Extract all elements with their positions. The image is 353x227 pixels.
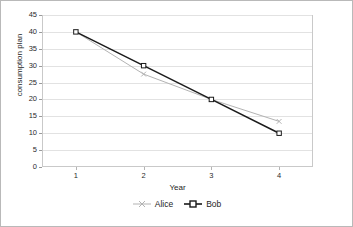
x-axis-title: Year bbox=[42, 184, 313, 192]
legend-entry-bob[interactable]: Bob bbox=[183, 199, 221, 209]
data-point-marker-bob bbox=[209, 97, 213, 101]
legend-entry-alice[interactable]: Alice bbox=[132, 199, 173, 209]
line-chart-figure: consumption plan 051015202530354045 1234… bbox=[0, 0, 353, 227]
data-point-marker-bob bbox=[277, 131, 281, 135]
data-series-layer bbox=[42, 15, 313, 167]
y-axis-tick-label: 0 bbox=[7, 163, 37, 171]
y-axis-tick-mark bbox=[39, 167, 42, 168]
x-axis-tick-mark bbox=[211, 167, 212, 170]
x-axis-tick-mark bbox=[144, 167, 145, 170]
y-axis-tick-label: 30 bbox=[7, 62, 37, 70]
series-line-alice bbox=[76, 32, 279, 122]
series-line-bob bbox=[76, 32, 279, 133]
data-point-marker-alice bbox=[141, 72, 146, 77]
x-axis-tick-label: 2 bbox=[129, 172, 159, 180]
y-axis-tick-label: 25 bbox=[7, 79, 37, 87]
x-axis-tick-label: 1 bbox=[61, 172, 91, 180]
y-axis-tick-label: 5 bbox=[7, 146, 37, 154]
y-axis-tick-label: 35 bbox=[7, 45, 37, 53]
y-axis-tick-label: 10 bbox=[7, 129, 37, 137]
legend-label: Bob bbox=[206, 200, 221, 209]
y-axis-tick-label: 20 bbox=[7, 95, 37, 103]
y-axis-tick-label: 15 bbox=[7, 112, 37, 120]
data-point-marker-bob bbox=[74, 30, 78, 34]
y-axis-tick-label: 45 bbox=[7, 11, 37, 19]
x-axis-tick-mark bbox=[279, 167, 280, 170]
legend-label: Alice bbox=[155, 200, 173, 209]
data-point-marker-alice bbox=[277, 119, 282, 124]
x-axis-tick-label: 3 bbox=[196, 172, 226, 180]
legend-marker-x-icon bbox=[132, 199, 152, 209]
data-point-marker-bob bbox=[141, 63, 145, 67]
x-axis-tick-mark bbox=[76, 167, 77, 170]
y-axis-tick-label: 40 bbox=[7, 28, 37, 36]
x-axis-tick-label: 4 bbox=[264, 172, 294, 180]
legend-marker-square-icon bbox=[183, 199, 203, 209]
chart-legend: AliceBob bbox=[1, 199, 352, 209]
